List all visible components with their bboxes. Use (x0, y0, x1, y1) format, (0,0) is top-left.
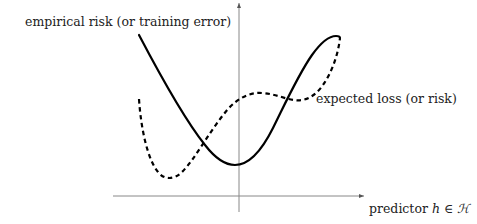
risk-diagram: empirical risk (or training error) expec… (0, 0, 477, 224)
x-axis-label-prefix: predictor (369, 201, 432, 216)
x-axis-label-var: h (432, 201, 440, 216)
expected-loss-label: expected loss (or risk) (316, 93, 457, 106)
x-axis-label-in: ∈ (440, 201, 457, 216)
x-axis-label: predictor h ∈ ℋ (369, 203, 469, 216)
x-axis-label-set: ℋ (457, 201, 469, 216)
diagram-canvas (0, 0, 477, 224)
empirical-risk-label: empirical risk (or training error) (25, 16, 231, 29)
